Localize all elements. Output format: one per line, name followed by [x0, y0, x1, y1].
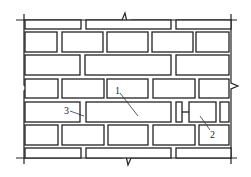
- brick: [199, 79, 229, 98]
- brick: [153, 125, 195, 145]
- callout-label-2: 2: [210, 129, 215, 140]
- right-break-line: [231, 14, 238, 164]
- callout-label-1: 1: [115, 85, 120, 96]
- brick: [86, 148, 171, 158]
- brick-wall-diagram: 123: [0, 0, 251, 177]
- brick: [86, 102, 171, 122]
- brick: [25, 148, 81, 158]
- wall-svg: 123: [0, 0, 251, 177]
- brick: [25, 20, 81, 29]
- brick: [176, 55, 229, 75]
- brick: [107, 32, 148, 52]
- brick: [62, 79, 104, 98]
- brick: [25, 79, 58, 98]
- brick: [107, 79, 148, 98]
- brick: [85, 55, 171, 75]
- brick: [25, 55, 80, 75]
- brick: [176, 148, 231, 158]
- brick: [196, 32, 229, 52]
- brick: [220, 102, 229, 122]
- brick: [86, 20, 171, 29]
- brick: [108, 125, 148, 145]
- brick: [176, 20, 231, 29]
- brick: [176, 102, 182, 122]
- brick: [152, 32, 193, 52]
- brick: [153, 79, 195, 98]
- brick: [62, 32, 103, 52]
- brick: [62, 125, 104, 145]
- callout-label-3: 3: [64, 105, 69, 116]
- brick: [25, 32, 57, 52]
- brick: [25, 125, 58, 145]
- brick-courses: [25, 20, 231, 158]
